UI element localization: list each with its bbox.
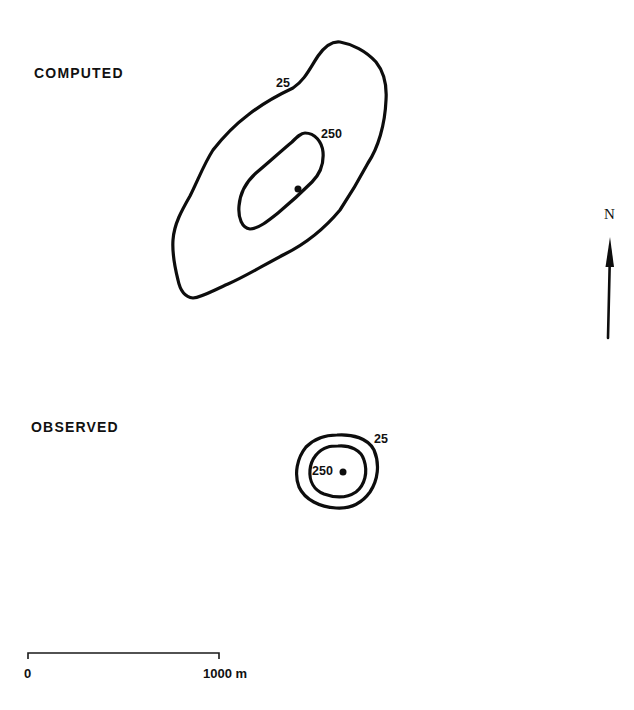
- computed-contour-250: [239, 133, 323, 229]
- observed-label-250: 250: [312, 465, 333, 478]
- observed-source-point-icon: [340, 469, 347, 476]
- computed-title: COMPUTED: [34, 66, 124, 80]
- scale-start-label: 0: [24, 667, 31, 680]
- plume-contour-map: [0, 0, 634, 710]
- scale-bar: [28, 653, 219, 659]
- scale-bar-line: [28, 653, 219, 659]
- observed-label-25: 25: [374, 433, 388, 446]
- computed-label-25: 25: [276, 77, 290, 90]
- scale-end-label: 1000 m: [203, 667, 247, 680]
- observed-title: OBSERVED: [31, 420, 119, 434]
- computed-label-250: 250: [321, 128, 342, 141]
- north-label: N: [604, 207, 615, 222]
- north-arrow-head-icon: [606, 237, 615, 267]
- observed-panel: [297, 435, 378, 508]
- north-arrow-icon: [606, 237, 615, 338]
- computed-source-point-icon: [295, 186, 302, 193]
